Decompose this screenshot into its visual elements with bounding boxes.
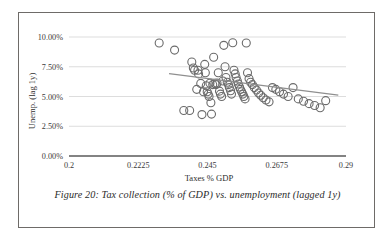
scatter-point xyxy=(155,39,163,47)
chart-svg: 0.00%2.50%5.00%7.50%10.00% 0.20.22250.24… xyxy=(19,13,376,183)
scatter-points-group xyxy=(155,39,330,119)
x-tick-label: 0.2 xyxy=(64,161,74,170)
scatter-chart: 0.00%2.50%5.00%7.50%10.00% 0.20.22250.24… xyxy=(19,13,376,183)
x-tick-label: 0.245 xyxy=(198,161,216,170)
scatter-point xyxy=(208,110,216,118)
scatter-point xyxy=(171,46,179,54)
x-tick-label: 0.2675 xyxy=(265,161,288,170)
y-tick-label: 5.00% xyxy=(42,93,63,102)
y-tick-label: 0.00% xyxy=(42,152,63,161)
y-tick-label: 7.50% xyxy=(42,63,63,72)
scatter-point xyxy=(214,69,222,77)
scatter-point xyxy=(186,107,194,115)
figure-frame: 0.00%2.50%5.00%7.50%10.00% 0.20.22250.24… xyxy=(18,12,375,228)
x-axis-title: Taxes % GDP xyxy=(185,173,234,183)
y-axis-title: Unemp. (lag 1y) xyxy=(27,73,37,130)
scatter-point xyxy=(241,95,249,103)
x-tick-label: 0.2225 xyxy=(127,161,150,170)
figure-caption: Figure 20: Tax collection (% of GDP) vs.… xyxy=(19,189,376,200)
scatter-point xyxy=(201,60,209,68)
scatter-point xyxy=(289,84,297,92)
y-tick-label: 10.00% xyxy=(38,33,63,42)
scatter-point xyxy=(322,97,330,105)
x-axis-tick-labels: 0.20.22250.2450.26750.29 xyxy=(64,161,353,170)
scatter-point xyxy=(229,39,237,47)
scatter-point xyxy=(210,53,218,61)
scatter-point xyxy=(294,95,302,103)
y-tick-label: 2.50% xyxy=(42,122,63,131)
scatter-point xyxy=(220,41,228,49)
scatter-point xyxy=(242,39,250,47)
x-tick-label: 0.29 xyxy=(339,161,353,170)
scatter-point xyxy=(198,111,206,119)
scatter-point xyxy=(257,91,265,99)
y-axis-tick-labels: 0.00%2.50%5.00%7.50%10.00% xyxy=(38,33,63,161)
